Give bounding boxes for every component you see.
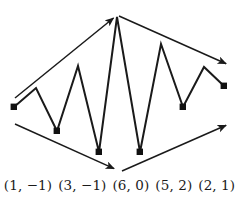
upper-right-arrow xyxy=(119,16,226,64)
upper-left-arrow xyxy=(15,18,114,98)
data-point-marker xyxy=(11,104,17,110)
data-point-marker xyxy=(54,128,60,134)
zigzag-polyline xyxy=(14,17,224,152)
coordinate-label-5: (2, 1) xyxy=(198,177,235,193)
data-point-marker xyxy=(180,104,186,110)
zigzag-diagram xyxy=(0,0,239,206)
coordinate-label-2: (3, −1) xyxy=(58,177,106,193)
data-point-marker xyxy=(221,83,227,89)
coordinate-label-3: (6, 0) xyxy=(112,177,149,193)
coordinate-label-1: (1, −1) xyxy=(4,177,52,193)
data-point-marker xyxy=(96,149,102,155)
coordinate-label-4: (5, 2) xyxy=(155,177,192,193)
zigzag-markers xyxy=(11,83,227,155)
figure-container: (1, −1) (3, −1) (6, 0) (5, 2) (2, 1) xyxy=(0,0,239,206)
data-point-marker xyxy=(137,149,143,155)
coordinate-label-row: (1, −1) (3, −1) (6, 0) (5, 2) (2, 1) xyxy=(0,177,239,193)
